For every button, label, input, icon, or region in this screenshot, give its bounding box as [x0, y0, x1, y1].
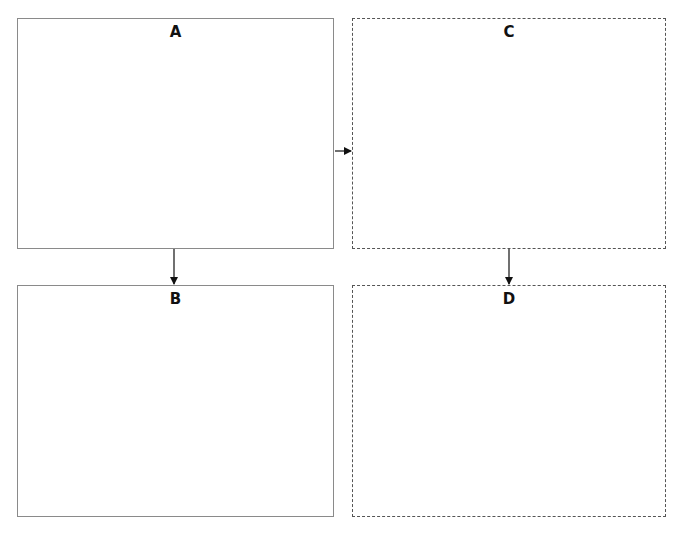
edges-layer [0, 0, 680, 539]
